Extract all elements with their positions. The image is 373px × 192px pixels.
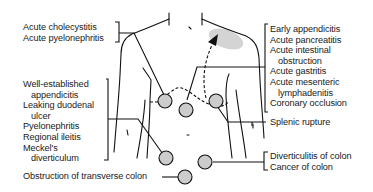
- label-early-appendicitis: Early appendicitis: [270, 24, 347, 35]
- label-obstruction: obstruction: [270, 56, 347, 67]
- label-acute-cholecystitis: Acute cholecystitis: [23, 22, 104, 33]
- right-label-group-2: Splenic rupture: [270, 117, 330, 128]
- pain-site-circle: [198, 155, 212, 169]
- label-acute-pancreatitis: Acute pancreatitis: [270, 35, 347, 46]
- label-acute-gastritis: Acute gastritis: [270, 66, 347, 77]
- label-acute-pyelonephritis: Acute pyelonephritis: [23, 33, 104, 44]
- label-splenic-rupture: Splenic rupture: [270, 117, 330, 128]
- label-coronary-occlusion: Coronary occlusion: [270, 98, 347, 109]
- label-well-established: Well-established: [23, 79, 94, 90]
- label-acute-intestinal: Acute intestinal: [270, 45, 347, 56]
- label-obstruction-transverse-colon: Obstruction of transverse colon: [23, 171, 147, 182]
- label-ulcer: ulcer: [23, 111, 94, 122]
- right-label-group-3: Diverticulitis of colon Cancer of colon: [270, 151, 351, 172]
- label-meckels: Meckel's: [23, 143, 94, 154]
- referred-pain-diagram: Acute cholecystitis Acute pyelonephritis…: [0, 0, 373, 192]
- pain-site-circle: [209, 94, 223, 108]
- right-label-group-1: Early appendicitis Acute pancreatitis Ac…: [270, 24, 347, 109]
- label-leaking-duodenal: Leaking duodenal: [23, 100, 94, 111]
- label-diverticulum: diverticulum: [23, 153, 94, 164]
- left-label-group-2: Well-established appendicitis Leaking du…: [23, 79, 94, 164]
- label-appendicitis: appendicitis: [23, 90, 94, 101]
- pain-site-circle: [179, 103, 193, 117]
- label-cancer-of-colon: Cancer of colon: [270, 162, 351, 173]
- label-pyelonephritis: Pyelonephritis: [23, 121, 94, 132]
- left-label-group-1: Acute cholecystitis Acute pyelonephritis: [23, 22, 104, 43]
- pain-site-circle: [158, 94, 172, 108]
- label-acute-mesenteric: Acute mesenteric: [270, 77, 347, 88]
- left-label-group-3: Obstruction of transverse colon: [23, 171, 147, 182]
- label-diverticulitis-of-colon: Diverticulitis of colon: [270, 151, 351, 162]
- label-regional-ileitis: Regional ileitis: [23, 132, 94, 143]
- pain-site-circle: [159, 151, 173, 165]
- label-lymphadenitis: lymphadenitis: [270, 88, 347, 99]
- pain-site-circle: [178, 170, 192, 184]
